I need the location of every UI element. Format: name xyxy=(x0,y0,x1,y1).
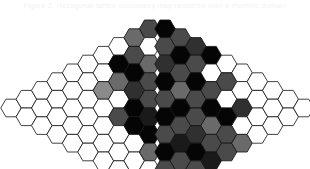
figure-container: Figure 2. Hexagonal lattice occupancy ma… xyxy=(0,0,310,169)
hex-grid-svg xyxy=(0,11,310,169)
hex-cell-layer xyxy=(1,20,310,169)
figure-caption: Figure 2. Hexagonal lattice occupancy ma… xyxy=(0,0,310,11)
hex-grid-region xyxy=(0,11,310,169)
